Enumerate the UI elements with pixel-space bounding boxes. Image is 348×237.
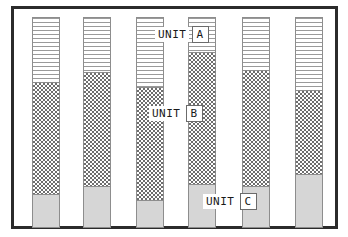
column-6-segment-unit-a — [296, 18, 322, 90]
column-5-segment-unit-a — [243, 18, 269, 70]
stacked-column-2[interactable] — [83, 17, 111, 228]
stacked-column-1[interactable] — [32, 17, 60, 228]
column-6-segment-unit-c — [296, 174, 322, 228]
stacked-column-6[interactable] — [295, 17, 323, 228]
column-6-segment-unit-b — [296, 90, 322, 174]
diagram-frame: UNIT A UNIT B UNIT C — [11, 6, 338, 229]
column-5-segment-unit-b — [243, 70, 269, 186]
label-unit-b: UNIT B — [149, 105, 203, 122]
column-2-segment-unit-a — [84, 18, 110, 72]
label-unit-b-key: B — [186, 105, 203, 122]
label-unit-a: UNIT A — [155, 26, 209, 43]
column-2-segment-unit-c — [84, 186, 110, 228]
label-unit-c-key: C — [240, 193, 257, 210]
column-3-segment-unit-c — [137, 200, 163, 228]
diagram-canvas: UNIT A UNIT B UNIT C — [14, 9, 335, 226]
stacked-column-3[interactable] — [136, 17, 164, 228]
column-1-segment-unit-b — [33, 82, 59, 194]
column-2-segment-unit-b — [84, 72, 110, 186]
label-unit-c-word: UNIT — [203, 194, 237, 209]
label-unit-a-word: UNIT — [155, 27, 189, 42]
column-1-segment-unit-c — [33, 194, 59, 228]
column-3-segment-unit-b — [137, 87, 163, 200]
column-1-segment-unit-a — [33, 18, 59, 82]
label-unit-b-word: UNIT — [149, 106, 183, 121]
label-unit-c: UNIT C — [203, 193, 257, 210]
label-unit-a-key: A — [192, 26, 209, 43]
